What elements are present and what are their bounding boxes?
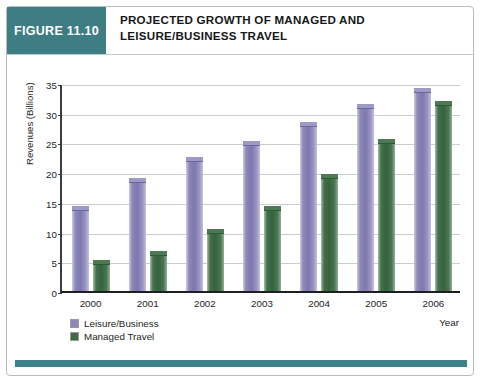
bar-face (129, 181, 146, 291)
bar-group: 2002 (176, 83, 233, 291)
bar-cap (378, 139, 395, 143)
chart-legend: Leisure/BusinessManaged Travel (70, 317, 159, 343)
bar-face (357, 107, 374, 291)
bar-cap (300, 122, 317, 126)
legend-swatch (70, 319, 79, 328)
legend-label: Managed Travel (84, 331, 154, 342)
figure-title-line-2: LEISURE/BUSINESS TRAVEL (120, 28, 463, 44)
bar-cap (435, 101, 452, 105)
bar-face (186, 160, 203, 291)
bar-cap (357, 104, 374, 108)
y-tick-label: 15 (46, 198, 57, 209)
bar-group: 2005 (348, 83, 405, 291)
legend-swatch (70, 332, 79, 341)
bar-face (414, 91, 431, 291)
x-tick-label: 2002 (194, 298, 216, 309)
y-tick-label: 25 (46, 139, 57, 150)
bar-face (321, 177, 338, 291)
bar-cap (207, 229, 224, 233)
figure-title-line-1: PROJECTED GROWTH OF MANAGED AND (120, 12, 463, 28)
x-tick-label: 2003 (251, 298, 273, 309)
figure-number-badge: FIGURE 11.10 (7, 7, 106, 54)
y-tick-label: 20 (46, 169, 57, 180)
bar-cap (150, 251, 167, 255)
legend-item[interactable]: Leisure/Business (70, 317, 159, 330)
y-tick-label: 10 (46, 228, 57, 239)
bar-face (264, 209, 281, 291)
bar-leisure-business-2005[interactable] (357, 107, 374, 291)
bar-face (243, 144, 260, 291)
bar-cap (264, 206, 281, 210)
plot-area: 05101520253035 2000200120022003200420052… (60, 85, 460, 293)
y-tick-label: 35 (46, 80, 57, 91)
bar-face (93, 263, 110, 291)
bar-face (435, 104, 452, 291)
bar-group: 2003 (233, 83, 290, 291)
y-tick-label: 30 (46, 109, 57, 120)
bar-group: 2000 (62, 83, 119, 291)
bar-leisure-business-2002[interactable] (186, 160, 203, 291)
bar-leisure-business-2001[interactable] (129, 181, 146, 291)
y-axis-title: Revenues (Billions) (24, 45, 35, 165)
bar-group: 2004 (291, 83, 348, 291)
bar-leisure-business-2003[interactable] (243, 144, 260, 291)
y-tick-label: 5 (52, 258, 57, 269)
bar-managed-travel-2003[interactable] (264, 209, 281, 291)
x-axis-title: Year (439, 317, 459, 328)
figure-footer-rule (15, 360, 467, 367)
x-tick-label: 2006 (423, 298, 445, 309)
bar-managed-travel-2002[interactable] (207, 232, 224, 291)
bar-face (300, 125, 317, 291)
x-tick-label: 2001 (137, 298, 159, 309)
bar-cap (243, 141, 260, 145)
bar-face (207, 232, 224, 291)
bar-managed-travel-2004[interactable] (321, 177, 338, 291)
legend-label: Leisure/Business (84, 318, 159, 329)
bar-managed-travel-2000[interactable] (93, 263, 110, 291)
bar-face (378, 142, 395, 291)
bar-face (72, 209, 89, 291)
bar-group: 2001 (119, 83, 176, 291)
bar-cap (414, 88, 431, 92)
x-tick-label: 2004 (308, 298, 330, 309)
bar-cap (186, 157, 203, 161)
y-tick-mark (58, 293, 62, 294)
bar-group: 2006 (405, 83, 462, 291)
bar-leisure-business-2006[interactable] (414, 91, 431, 291)
bar-cap (93, 260, 110, 264)
y-tick-label: 0 (52, 288, 57, 299)
chart-region: Revenues (Billions) 05101520253035 20002… (7, 55, 473, 351)
bar-cap (321, 174, 338, 178)
bar-cap (72, 206, 89, 210)
figure-title: PROJECTED GROWTH OF MANAGED AND LEISURE/… (106, 7, 473, 54)
bar-leisure-business-2000[interactable] (72, 209, 89, 291)
figure-card: FIGURE 11.10 PROJECTED GROWTH OF MANAGED… (6, 6, 474, 376)
bar-managed-travel-2006[interactable] (435, 104, 452, 291)
legend-item[interactable]: Managed Travel (70, 330, 159, 343)
bar-managed-travel-2005[interactable] (378, 142, 395, 291)
x-tick-label: 2005 (365, 298, 387, 309)
bar-cap (129, 178, 146, 182)
x-tick-label: 2000 (80, 298, 102, 309)
figure-header: FIGURE 11.10 PROJECTED GROWTH OF MANAGED… (7, 7, 473, 55)
bar-leisure-business-2004[interactable] (300, 125, 317, 291)
bar-managed-travel-2001[interactable] (150, 254, 167, 291)
bar-face (150, 254, 167, 291)
